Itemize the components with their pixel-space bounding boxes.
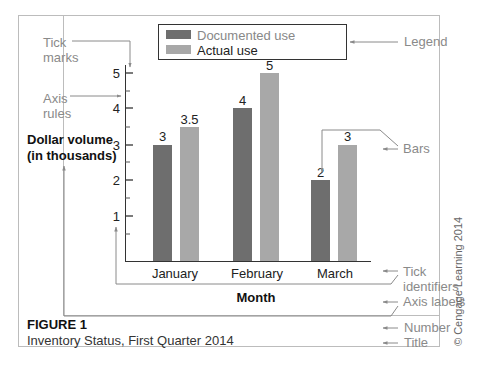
annotation-tick-marks-2: marks <box>43 50 79 65</box>
xtick-label-january: January <box>152 266 199 281</box>
bar-label-march-documented: 2 <box>317 165 324 180</box>
bar-chart-figure: Documented use Actual use 5 4 3 2 1 3 3.… <box>0 0 490 377</box>
xtick-label-march: March <box>317 266 353 281</box>
annotation-axis-rules-2: rules <box>43 106 72 121</box>
annotation-number: Number <box>404 320 451 335</box>
bar-march-actual <box>338 145 357 261</box>
bar-label-january-documented: 3 <box>159 129 166 144</box>
bar-february-actual <box>260 73 279 261</box>
annotation-tick-identifiers-2: identifiers <box>403 279 459 294</box>
annotation-legend: Legend <box>404 34 447 49</box>
bar-label-january-actual: 3.5 <box>180 112 198 127</box>
bar-label-february-documented: 4 <box>239 93 246 108</box>
tick-marks-arrow <box>72 41 130 67</box>
annotation-axis-rules-1: Axis <box>43 91 68 106</box>
bar-march-documented <box>311 180 330 261</box>
bar-february-documented <box>233 108 252 261</box>
annotation-tick-identifiers-1: Tick <box>403 264 427 279</box>
legend-swatch-documented <box>166 30 191 39</box>
figure-number: FIGURE 1 <box>27 317 87 332</box>
ytick-label-4: 4 <box>113 101 120 116</box>
y-axis-label-line2: (in thousands) <box>27 148 117 163</box>
bar-label-march-actual: 3 <box>344 129 351 144</box>
ytick-label-1: 1 <box>113 209 120 224</box>
legend-swatch-actual <box>166 45 191 54</box>
bar-january-documented <box>153 145 172 261</box>
legend-label-documented: Documented use <box>197 28 295 43</box>
bar-label-february-actual: 5 <box>266 58 273 73</box>
figure-title: Inventory Status, First Quarter 2014 <box>27 333 234 348</box>
figure-outer-box <box>19 16 440 347</box>
x-axis-label: Month <box>237 290 276 305</box>
annotation-tick-marks-1: Tick <box>43 35 67 50</box>
bars-leader-line <box>322 130 398 172</box>
ytick-label-2: 2 <box>113 173 120 188</box>
bar-january-actual <box>180 127 199 261</box>
xtick-label-february: February <box>231 266 284 281</box>
y-axis-label-line1: Dollar volume <box>27 132 113 147</box>
annotation-title: Title <box>404 335 428 350</box>
ytick-label-5: 5 <box>113 66 120 81</box>
annotation-bars: Bars <box>403 141 430 156</box>
copyright-notice: © Cengage Learning 2014 <box>452 217 464 346</box>
legend-label-actual: Actual use <box>197 43 258 58</box>
